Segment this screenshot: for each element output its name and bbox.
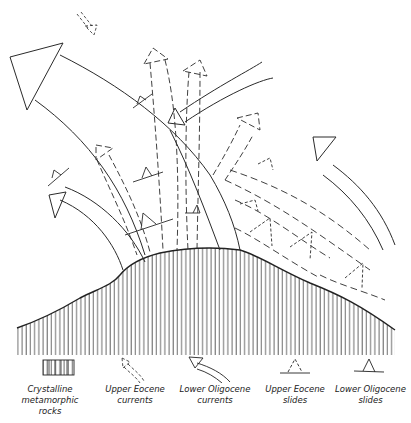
legend: Crystalline metamorphic rocks Upper Eoce… [0, 355, 411, 423]
lower-oligocene-slides [48, 94, 200, 235]
solid-arrow-icon [170, 355, 260, 383]
legend-label: Crystalline metamorphic rocks [0, 384, 100, 417]
dashed-arrow-icon [100, 355, 170, 383]
dashed-slide-icon [260, 355, 330, 383]
legend-label: Upper Eocene slides [260, 384, 330, 406]
solid-slide-icon [330, 355, 411, 383]
legend-label: Upper Eocene currents [100, 384, 170, 406]
upper-eocene-current-arrow-small [77, 12, 97, 35]
crystalline-basement [17, 248, 395, 355]
hatch-box-icon [0, 355, 100, 383]
lower-oligocene-current-arrow [10, 43, 240, 255]
legend-label: Lower Oligocene currents [170, 384, 260, 406]
upper-eocene-current-arrows [96, 48, 260, 255]
legend-label: Lower Oligocene slides [330, 384, 411, 406]
lower-oligocene-current-arrows [49, 62, 395, 270]
geology-diagram [0, 0, 411, 355]
